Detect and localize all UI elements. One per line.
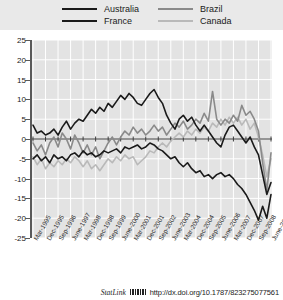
legend-item-canada: Canada	[158, 15, 268, 27]
doi-link[interactable]: http://dx.doi.org/10.1787/823275077561	[150, 288, 279, 297]
y-axis-labels: 2520151050-5-10-15-20-25	[0, 30, 30, 248]
legend-line-icon-canada	[158, 20, 193, 22]
legend-label-brazil: Brazil	[200, 3, 223, 15]
series-canvas	[32, 40, 272, 238]
legend-label-canada: Canada	[200, 15, 232, 27]
legend-grid: Australia Brazil France Canada	[62, 3, 268, 27]
legend-line-icon-brazil	[158, 8, 193, 10]
chart-page: Australia Brazil France Canada 252015105…	[0, 0, 283, 300]
legend-line-icon-france	[62, 20, 97, 22]
legend-item-france: France	[62, 15, 158, 27]
legend-item-brazil: Brazil	[158, 3, 268, 15]
legend-line-icon-australia	[62, 8, 97, 10]
plot-area	[32, 40, 272, 238]
chart-area: 2520151050-5-10-15-20-25 Mar-1995Dec-199…	[0, 30, 283, 245]
legend-label-france: France	[104, 15, 132, 27]
statlink-label: StatLink	[101, 288, 126, 297]
legend-label-australia: Australia	[104, 3, 139, 15]
legend-item-australia: Australia	[62, 3, 158, 15]
barcode-icon	[130, 289, 146, 295]
source-line: StatLink http://dx.doi.org/10.1787/82327…	[0, 285, 283, 299]
chart-legend: Australia Brazil France Canada	[0, 0, 283, 30]
